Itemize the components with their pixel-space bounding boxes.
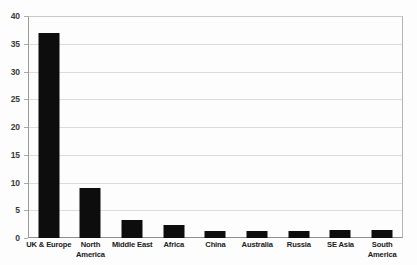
y-axis-tick-label: 15 — [11, 151, 20, 160]
bar-group — [28, 16, 70, 238]
bar-group — [195, 16, 237, 238]
bars-layer — [28, 16, 403, 238]
bar-group — [111, 16, 153, 238]
bar[interactable] — [330, 230, 351, 238]
bar[interactable] — [38, 33, 59, 238]
y-axis-tick-label: 25 — [11, 95, 20, 104]
x-axis: UK & EuropeNorth AmericaMiddle EastAfric… — [28, 240, 403, 265]
bar-group — [278, 16, 320, 238]
bar[interactable] — [163, 225, 184, 238]
y-axis-tick-label: 30 — [11, 67, 20, 76]
bar-group — [236, 16, 278, 238]
bar-group — [361, 16, 403, 238]
bar[interactable] — [372, 230, 393, 238]
y-axis-tick-label: 0 — [15, 234, 20, 243]
y-axis-tick-label: 10 — [11, 178, 20, 187]
y-axis-tick-label: 20 — [11, 123, 20, 132]
y-axis: 0510152025303540 — [0, 0, 28, 265]
bar-chart-figure: 0510152025303540 UK & EuropeNorth Americ… — [0, 0, 417, 265]
bar-group — [153, 16, 195, 238]
bar[interactable] — [122, 220, 143, 238]
y-axis-tick-label: 5 — [15, 206, 20, 215]
y-axis-tick-mark — [24, 238, 28, 239]
bar[interactable] — [205, 231, 226, 238]
bar[interactable] — [80, 188, 101, 238]
x-axis-tick-label: South America — [357, 240, 407, 259]
y-axis-tick-label: 35 — [11, 40, 20, 49]
bar-group — [70, 16, 112, 238]
y-axis-tick-label: 40 — [11, 12, 20, 21]
bar[interactable] — [247, 231, 268, 238]
bar[interactable] — [288, 231, 309, 238]
bar-group — [320, 16, 362, 238]
